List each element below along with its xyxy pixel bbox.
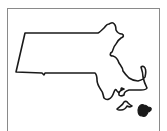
nantucket — [138, 105, 151, 117]
massachusetts-map — [0, 0, 167, 131]
marthas-vineyard — [117, 101, 132, 110]
mainland-outline — [16, 23, 147, 100]
